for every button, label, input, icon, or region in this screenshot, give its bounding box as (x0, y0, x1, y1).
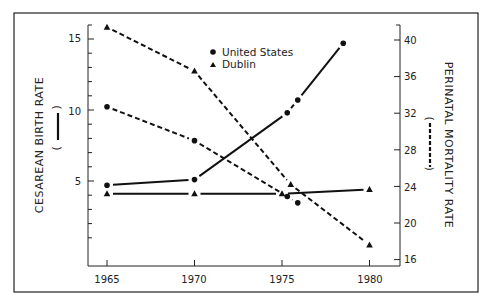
y2-tick-label: 24 (404, 182, 417, 193)
y2-tick-label: 32 (404, 108, 417, 119)
circle-marker-icon (104, 104, 110, 110)
right-axis-legend-marker: ( ) (423, 117, 436, 172)
triangle-marker-icon (287, 181, 294, 187)
circle-marker-icon (295, 97, 301, 103)
x-tick-label: 1975 (269, 274, 294, 285)
y2-tick-label: 20 (404, 218, 417, 229)
triangle-marker-icon (279, 190, 286, 196)
circle-marker-icon (340, 40, 346, 46)
left-axis-legend-marker: ) ( (50, 105, 63, 151)
series-circle-right (104, 104, 300, 206)
y2-tick-label: 36 (404, 71, 417, 82)
y-tick-label: 10 (68, 106, 81, 117)
triangle-marker-icon (366, 241, 373, 247)
y2-tick-label: 40 (404, 35, 417, 46)
legend-label-dublin: Dublin (222, 58, 256, 70)
left-axis-ticks (88, 39, 94, 238)
circle-marker-icon (284, 194, 290, 200)
triangle-marker-icon (191, 68, 198, 74)
svg-text:): ) (423, 167, 436, 172)
svg-text:(: ( (423, 117, 436, 122)
triangle-marker-icon (104, 24, 111, 30)
svg-text:): ) (50, 105, 63, 110)
triangle-marker-icon (366, 186, 373, 192)
circle-marker-icon (295, 200, 301, 206)
y2-tick-label: 28 (404, 145, 417, 156)
circle-marker-icon (104, 182, 110, 188)
triangle-marker-icon (191, 190, 198, 196)
right-axis-ticks (394, 40, 400, 260)
series-triangle-left (104, 186, 373, 196)
legend-label-us: United States (222, 46, 293, 58)
x-tick-label: 1965 (94, 274, 119, 285)
right-axis-title: PERINATAL MORTALITY RATE (442, 62, 455, 229)
y2-tick-label: 16 (404, 254, 417, 265)
svg-text:(: ( (50, 146, 63, 151)
y-tick-label: 5 (75, 176, 81, 187)
left-axis-title: CESAREAN BIRTH RATE (33, 77, 46, 213)
chart: 15 10 5 40 36 32 28 24 20 16 1965 1970 1… (0, 0, 497, 301)
triangle-marker-icon (104, 190, 111, 196)
circle-marker-icon (192, 177, 198, 183)
legend-triangle-icon (210, 62, 216, 67)
x-tick-label: 1970 (181, 274, 206, 285)
circle-marker-icon (192, 138, 198, 144)
legend: United States Dublin (210, 46, 293, 70)
circle-marker-icon (284, 110, 290, 116)
y-tick-label: 15 (68, 33, 81, 44)
x-axis-ticks (107, 260, 370, 266)
legend-circle-icon (210, 49, 216, 55)
x-tick-label: 1980 (357, 274, 382, 285)
